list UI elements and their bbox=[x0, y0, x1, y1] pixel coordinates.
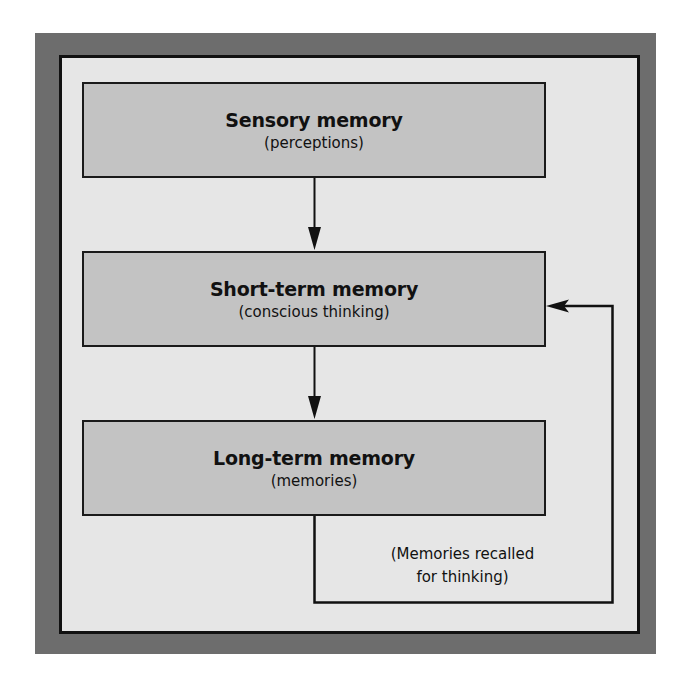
connectors bbox=[0, 0, 685, 683]
feedback-label-line2: for thinking) bbox=[355, 566, 570, 589]
feedback-label: (Memories recalled for thinking) bbox=[355, 543, 570, 589]
arrow-short-term-to-long-term bbox=[308, 347, 321, 419]
feedback-label-line1: (Memories recalled bbox=[355, 543, 570, 566]
arrowhead-down-icon bbox=[308, 396, 321, 419]
arrowhead-down-icon bbox=[308, 227, 321, 250]
arrow-sensory-to-short-term bbox=[308, 178, 321, 250]
